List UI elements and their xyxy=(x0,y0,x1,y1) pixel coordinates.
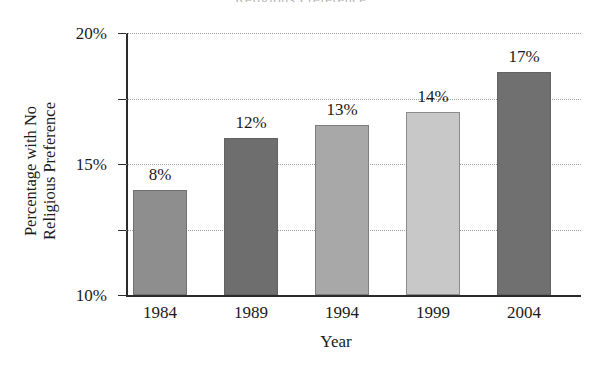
y-axis-tick-label: 15% xyxy=(76,155,107,175)
bar-group[interactable]: 13%1994 xyxy=(315,33,369,295)
x-axis-tick-label: 1989 xyxy=(234,303,268,323)
bar-value-label: 14% xyxy=(417,87,448,107)
x-axis-tick-label: 1994 xyxy=(325,303,359,323)
bar[interactable] xyxy=(315,125,369,295)
bar-value-label: 13% xyxy=(326,100,357,120)
y-axis-tick-label: 20% xyxy=(76,24,107,44)
y-axis-tick: 5% xyxy=(118,230,126,231)
x-axis-tick-label: 1999 xyxy=(416,303,450,323)
y-axis-title-line-2: Religious Preference xyxy=(40,36,59,306)
bar[interactable] xyxy=(133,190,187,295)
bar-value-label: 8% xyxy=(149,165,172,185)
y-axis-tick: 15% xyxy=(118,99,126,100)
x-axis-line xyxy=(126,295,581,297)
bar[interactable] xyxy=(497,72,551,295)
y-axis-tick: 10% xyxy=(118,164,126,165)
x-axis-title: Year xyxy=(126,332,546,352)
y-axis-title: Percentage with No Religious Preference xyxy=(21,36,59,306)
bar-group[interactable]: 14%1999 xyxy=(406,33,460,295)
y-axis-tick: 0 xyxy=(118,295,126,296)
bar-chart-figure: Religious Preference Percentage with No … xyxy=(0,0,601,378)
bar-group[interactable]: 17%2004 xyxy=(497,33,551,295)
y-axis-tick: 20% xyxy=(118,33,126,34)
x-axis-tick-label: 2004 xyxy=(507,303,541,323)
x-axis-tick-label: 1984 xyxy=(143,303,177,323)
chart-title-remnant: Religious Preference xyxy=(0,0,601,2)
bar-value-label: 17% xyxy=(508,47,539,67)
y-axis-tick-label: 10% xyxy=(76,286,107,306)
plot-area: 05%10%15%20% 8%198412%198913%199414%1999… xyxy=(126,33,581,295)
bar-group[interactable]: 12%1989 xyxy=(224,33,278,295)
y-axis-title-line-1: Percentage with No xyxy=(21,36,40,306)
bar[interactable] xyxy=(406,112,460,295)
bar-value-label: 12% xyxy=(235,113,266,133)
bar[interactable] xyxy=(224,138,278,295)
bars-group: 8%198412%198913%199414%199917%2004 xyxy=(126,33,581,295)
bar-group[interactable]: 8%1984 xyxy=(133,33,187,295)
